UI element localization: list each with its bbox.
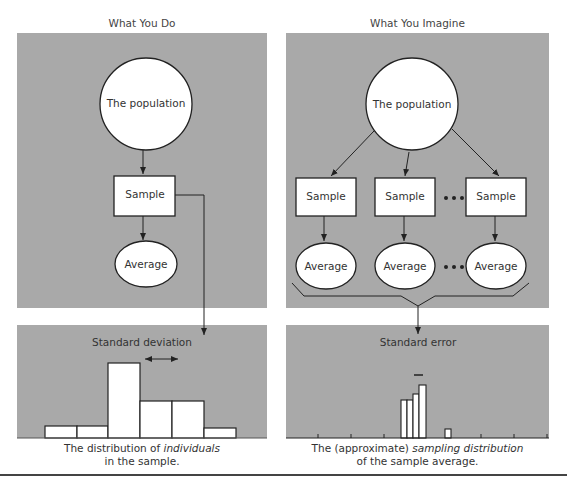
- right-average-node-1: Average: [296, 243, 356, 289]
- right-average-node-3: Average: [466, 243, 526, 289]
- right-average-node-2: Average: [375, 243, 435, 289]
- right-population-label: The population: [372, 98, 452, 110]
- left-population-node: The population: [100, 58, 192, 150]
- std-error-label: Standard error: [380, 336, 457, 348]
- right-sample-node-1: Sample: [296, 178, 356, 216]
- ellipsis-icon: [444, 196, 464, 200]
- sampling-diagram: The population Sample Average The popula…: [0, 0, 567, 483]
- svg-text:Sample: Sample: [306, 190, 345, 202]
- svg-text:Average: Average: [383, 260, 426, 272]
- left-population-label: The population: [106, 97, 186, 109]
- ellipsis-icon: [444, 265, 464, 269]
- right-population-node: The population: [366, 58, 458, 150]
- left-average-label: Average: [124, 258, 167, 270]
- svg-text:Sample: Sample: [476, 190, 515, 202]
- std-deviation-label: Standard deviation: [92, 336, 192, 348]
- right-sample-node-2: Sample: [375, 178, 435, 216]
- right-sample-node-3: Sample: [466, 178, 526, 216]
- left-average-node: Average: [115, 241, 177, 287]
- svg-text:Average: Average: [474, 260, 517, 272]
- svg-text:Sample: Sample: [385, 190, 424, 202]
- right-histogram: [286, 385, 549, 438]
- bottom-divider: [0, 474, 567, 476]
- left-sample-label: Sample: [125, 188, 164, 200]
- left-histogram: [17, 363, 267, 438]
- right-caption: The (approximate) sampling distribution …: [286, 442, 549, 468]
- left-caption: The distribution of individuals in the s…: [17, 442, 267, 468]
- left-sample-node: Sample: [114, 176, 175, 216]
- svg-text:Average: Average: [304, 260, 347, 272]
